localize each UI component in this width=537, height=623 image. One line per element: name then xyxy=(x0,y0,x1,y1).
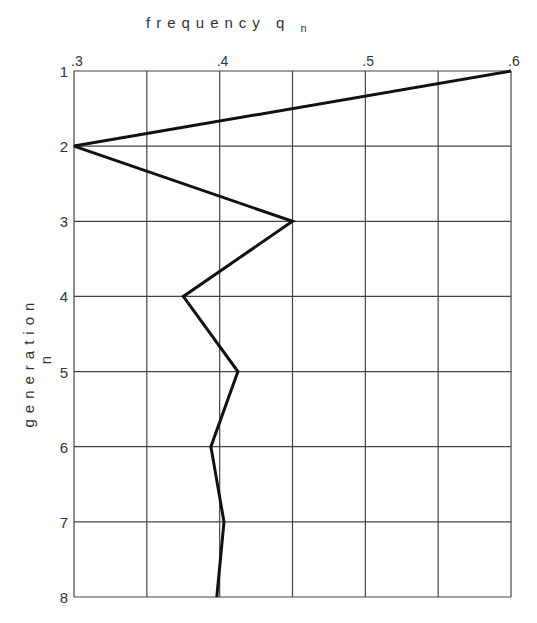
y-tick-label: 6 xyxy=(60,439,68,456)
y-tick-label: 3 xyxy=(60,213,68,230)
y-tick-labels: 12345678 xyxy=(60,63,68,606)
x-tick-label: .3 xyxy=(71,53,83,69)
x-tick-label: .4 xyxy=(217,53,229,69)
y-tick-label: 8 xyxy=(60,589,68,606)
y-tick-label: 7 xyxy=(60,514,68,531)
line-chart: .3.4.5.6 12345678 xyxy=(0,0,537,623)
y-tick-label: 5 xyxy=(60,364,68,381)
x-tick-label: .5 xyxy=(362,53,374,69)
grid xyxy=(74,71,511,597)
y-tick-label: 1 xyxy=(60,63,68,80)
y-tick-label: 2 xyxy=(60,138,68,155)
x-tick-labels: .3.4.5.6 xyxy=(71,53,520,69)
x-tick-label: .6 xyxy=(508,53,520,69)
y-tick-label: 4 xyxy=(60,288,68,305)
